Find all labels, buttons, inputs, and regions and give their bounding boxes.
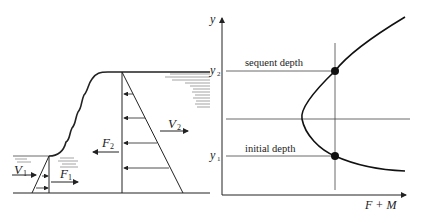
x-axis-label: F + M [364,198,397,212]
v1-subscript: 1 [23,169,27,178]
specific-force-chart: y F + M y 2 sequent depth y 1 initial de… [209,12,410,212]
jump-diagram: V 1 F 1 F 2 V 2 [12,72,210,193]
y1-subscript: 1 [217,155,221,163]
y-axis-label: y [209,12,216,26]
specific-force-curve [302,17,405,171]
f1-subscript: 1 [68,173,72,182]
water-hatch-large [165,74,210,107]
initial-depth-point [331,152,339,160]
y1-label: y [209,148,216,162]
f2-subscript: 2 [110,142,114,151]
sequent-depth-point [331,67,339,75]
initial-depth-label: initial depth [245,143,296,154]
sequent-depth-label: sequent depth [245,57,304,68]
y2-label: y [209,63,216,77]
hydraulic-jump-figure: V 1 F 1 F 2 V 2 y F + M y 2 sequent dept… [0,0,424,223]
y2-subscript: 2 [217,70,221,78]
downstream-pressure-line [122,72,183,193]
